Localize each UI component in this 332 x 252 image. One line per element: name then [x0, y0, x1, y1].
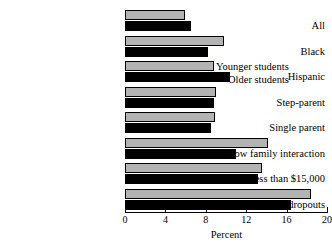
bar-younger-students: [125, 138, 268, 148]
x-tick-label: 0: [123, 214, 128, 226]
x-tick: [165, 207, 166, 213]
x-tick-label: 8: [203, 214, 208, 226]
legend-label-older: Older students: [228, 74, 289, 85]
legend: Younger students Older students: [216, 60, 289, 86]
bar-younger-students: [125, 87, 216, 97]
bar-younger-students: [125, 36, 224, 46]
x-axis-title: Percent: [125, 229, 328, 241]
bar-older-students: [125, 47, 208, 57]
bar-younger-students: [125, 10, 185, 20]
x-tick: [206, 207, 207, 213]
bar-older-students: [125, 149, 236, 159]
x-tick-label: 16: [282, 214, 292, 226]
x-tick: [125, 207, 126, 213]
bar-younger-students: [125, 189, 311, 199]
x-axis-line: [125, 212, 328, 213]
x-tick-label: 4: [163, 214, 168, 226]
bar-older-students: [125, 123, 211, 133]
plot-area: [125, 8, 327, 212]
bar-older-students: [125, 98, 214, 108]
x-tick: [287, 207, 288, 213]
bar-older-students: [125, 21, 191, 31]
legend-label-younger: Younger students: [216, 61, 289, 72]
bar-older-students: [125, 200, 291, 210]
legend-item-younger: Younger students: [216, 60, 289, 73]
x-tick-label: 12: [241, 214, 251, 226]
bar-younger-students: [125, 163, 262, 173]
legend-item-older: Older students: [216, 73, 289, 86]
x-tick-label: 20: [322, 214, 332, 226]
bar-older-students: [125, 174, 258, 184]
bar-younger-students: [125, 61, 214, 71]
x-tick: [246, 207, 247, 213]
bar-older-students: [125, 72, 230, 82]
x-tick: [327, 207, 328, 213]
bar-younger-students: [125, 112, 215, 122]
